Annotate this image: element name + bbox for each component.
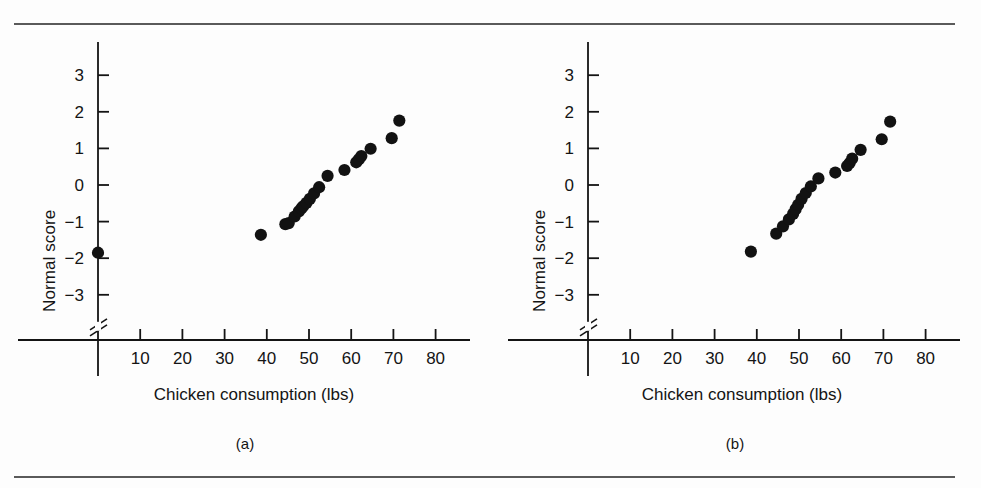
- data-point: [745, 246, 757, 258]
- y-tick-label-b--2: −2: [555, 249, 574, 268]
- x-tick-label-b-60: 60: [832, 349, 851, 368]
- data-point: [313, 181, 325, 193]
- x-tick-label-a-70: 70: [384, 349, 403, 368]
- x-tick-label-b-30: 30: [705, 349, 724, 368]
- data-point: [876, 133, 888, 145]
- y-tick-label-b-2: 2: [565, 103, 574, 122]
- data-point: [812, 172, 824, 184]
- y-tick-label-a-0: 0: [75, 176, 84, 195]
- data-points-b: [745, 116, 896, 258]
- rule-bottom: [14, 476, 955, 478]
- y-tick-label-b--3: −3: [555, 286, 574, 305]
- data-point: [393, 114, 405, 126]
- x-axis-label-b: Chicken consumption (lbs): [592, 385, 892, 405]
- y-axis-break-gap-a: [95, 322, 101, 331]
- x-tick-label-a-20: 20: [173, 349, 192, 368]
- data-point: [884, 116, 896, 128]
- y-axis-label-b: Normal score: [530, 210, 550, 312]
- x-tick-label-a-50: 50: [300, 349, 319, 368]
- x-tick-label-a-10: 10: [131, 349, 150, 368]
- data-point: [255, 229, 267, 241]
- y-tick-label-b-3: 3: [565, 66, 574, 85]
- x-axis-label-a: Chicken consumption (lbs): [104, 385, 404, 405]
- y-tick-label-a--2: −2: [65, 249, 84, 268]
- x-tick-label-a-80: 80: [426, 349, 445, 368]
- x-tick-label-b-20: 20: [663, 349, 682, 368]
- figure-page: { "figure": { "background": "#fdfdfd", "…: [0, 0, 981, 488]
- y-tick-label-a-2: 2: [75, 103, 84, 122]
- data-point: [365, 143, 377, 155]
- data-point: [855, 144, 867, 156]
- panel-caption-b: (b): [490, 435, 980, 452]
- data-point: [92, 247, 104, 259]
- y-tick-label-b--1: −1: [555, 213, 574, 232]
- y-tick-label-a-3: 3: [75, 66, 84, 85]
- x-tick-label-a-40: 40: [257, 349, 276, 368]
- data-point: [338, 164, 350, 176]
- y-axis-break-gap-b: [585, 322, 591, 331]
- y-tick-label-b-1: 1: [565, 139, 574, 158]
- data-point: [386, 132, 398, 144]
- x-tick-label-b-40: 40: [747, 349, 766, 368]
- x-tick-label-b-50: 50: [790, 349, 809, 368]
- x-tick-label-a-30: 30: [215, 349, 234, 368]
- y-axis-label-a: Normal score: [40, 210, 60, 312]
- x-tick-label-b-10: 10: [621, 349, 640, 368]
- x-tick-label-a-60: 60: [342, 349, 361, 368]
- scatter-plot-b: 3210−1−2−31020304050607080: [490, 24, 980, 404]
- y-tick-label-a--3: −3: [65, 286, 84, 305]
- data-point: [846, 153, 858, 165]
- y-tick-label-a-1: 1: [75, 139, 84, 158]
- x-tick-label-b-70: 70: [874, 349, 893, 368]
- panel-caption-a: (a): [0, 435, 490, 452]
- y-tick-label-a--1: −1: [65, 213, 84, 232]
- panel-a: 3210−1−2−31020304050607080 Normal score …: [0, 24, 490, 476]
- data-points-a: [92, 114, 406, 258]
- scatter-plot-a: 3210−1−2−31020304050607080: [0, 24, 490, 404]
- x-tick-label-b-80: 80: [916, 349, 935, 368]
- data-point: [321, 170, 333, 182]
- data-point: [829, 166, 841, 178]
- y-tick-label-b-0: 0: [565, 176, 574, 195]
- panel-b: 3210−1−2−31020304050607080 Normal score …: [490, 24, 980, 476]
